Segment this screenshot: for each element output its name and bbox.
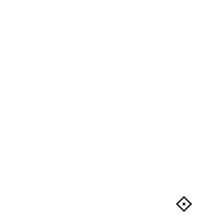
- diamond-target-icon: [176, 196, 192, 212]
- hyperbola-plot: [0, 0, 202, 219]
